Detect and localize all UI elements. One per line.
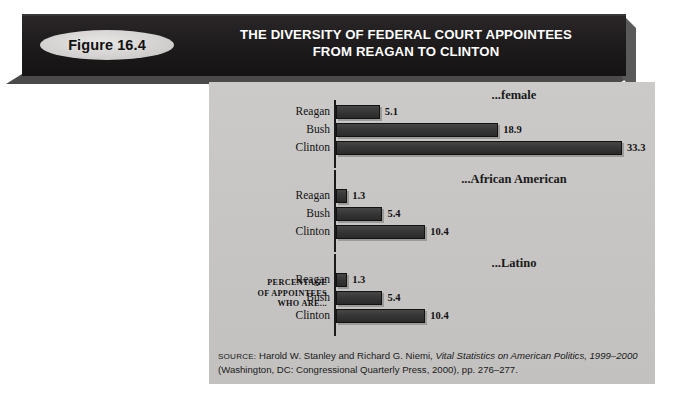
chart-group-female: ...female Reagan 5.1 Bush 18.9 Clinton 3… — [209, 86, 655, 168]
bar — [336, 105, 380, 119]
bar-row: Bush 5.4 — [209, 206, 655, 223]
bar-category-label: Bush — [244, 123, 330, 135]
chart-group-african-american: ...African American Reagan 1.3 Bush 5.4 … — [209, 170, 655, 252]
bar-row: Clinton 10.4 — [209, 224, 655, 241]
figure-number-label: Figure 16.4 — [68, 37, 146, 53]
bar — [336, 291, 382, 305]
source-label: SOURCE: — [218, 352, 256, 361]
bar-value-label: 1.3 — [352, 274, 365, 285]
bar-row: Clinton 33.3 — [209, 140, 655, 157]
bar — [336, 309, 425, 323]
bar-value-label: 10.4 — [430, 310, 448, 321]
bar-value-label: 1.3 — [352, 190, 365, 201]
bar-category-label: Reagan — [244, 105, 330, 117]
chart-panel: PERCENTAGE OF APPOINTEES WHO ARE... ...f… — [209, 82, 655, 384]
bar — [336, 225, 425, 239]
banner-top-highlight — [22, 14, 626, 16]
chart-group-title: ...Latino — [409, 256, 619, 271]
bar-category-label: Clinton — [244, 225, 330, 237]
bar-category-label: Bush — [244, 207, 330, 219]
bar-row: Reagan 5.1 — [209, 104, 655, 121]
chart-group-latino: ...Latino Reagan 1.3 Bush 5.4 Clinton 10… — [209, 254, 655, 336]
source-publication: (Washington, DC: Congressional Quarterly… — [218, 364, 518, 375]
bar-category-label: Reagan — [244, 273, 330, 285]
bar-value-label: 5.1 — [385, 106, 398, 117]
banner-face: Figure 16.4 THE DIVERSITY OF FEDERAL COU… — [22, 14, 626, 76]
chart-group-title: ...African American — [409, 172, 619, 187]
figure-title-line-1: THE DIVERSITY OF FEDERAL COURT APPOINTEE… — [202, 26, 610, 43]
figure-title-line-2: FROM REAGAN TO CLINTON — [202, 43, 610, 60]
figure-header-banner: Figure 16.4 THE DIVERSITY OF FEDERAL COU… — [22, 14, 634, 86]
bar-row: Reagan 1.3 — [209, 188, 655, 205]
source-note: SOURCE: Harold W. Stanley and Richard G.… — [218, 350, 648, 376]
figure-number-badge: Figure 16.4 — [40, 30, 174, 60]
figure-title: THE DIVERSITY OF FEDERAL COURT APPOINTEE… — [202, 26, 610, 60]
source-authors: Harold W. Stanley and Richard G. Niemi, — [256, 350, 435, 361]
bar-value-label: 18.9 — [503, 124, 521, 135]
bar — [336, 189, 347, 203]
bar — [336, 273, 347, 287]
bar-row: Bush 18.9 — [209, 122, 655, 139]
bar-value-label: 33.3 — [627, 142, 645, 153]
chart-group-title: ...female — [409, 88, 619, 103]
bar-value-label: 5.4 — [387, 292, 400, 303]
bar-category-label: Clinton — [244, 141, 330, 153]
bar-category-label: Clinton — [244, 309, 330, 321]
bar-category-label: Reagan — [244, 189, 330, 201]
bar — [336, 207, 382, 221]
bar-value-label: 10.4 — [430, 226, 448, 237]
bar-row: Reagan 1.3 — [209, 272, 655, 289]
bar — [336, 123, 498, 137]
bar-value-label: 5.4 — [387, 208, 400, 219]
bar-row: Clinton 10.4 — [209, 308, 655, 325]
source-work-title: Vital Statistics on American Politics, 1… — [435, 350, 637, 361]
bar-row: Bush 5.4 — [209, 290, 655, 307]
bar — [336, 141, 622, 155]
bar-category-label: Bush — [244, 291, 330, 303]
